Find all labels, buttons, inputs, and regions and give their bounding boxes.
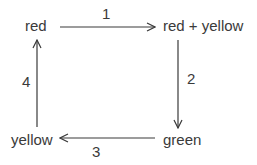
edge-label-1: 1: [102, 6, 110, 22]
node-red: red: [25, 18, 47, 34]
edge-label-3: 3: [92, 144, 100, 160]
node-yellow: yellow: [11, 132, 53, 148]
edge-label-4: 4: [22, 74, 30, 90]
node-green: green: [163, 132, 201, 148]
node-red-yellow: red + yellow: [163, 18, 243, 34]
edge-label-2: 2: [187, 71, 195, 87]
